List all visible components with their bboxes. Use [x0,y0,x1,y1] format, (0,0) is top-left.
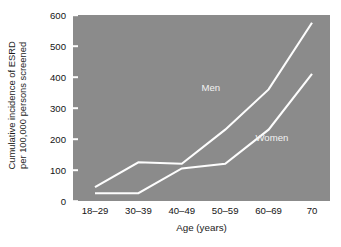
x-axis-tick-label: 18–29 [82,205,109,216]
x-axis-tick-label: 50–59 [212,205,239,216]
y-axis-tick-label: 200 [34,134,66,145]
series-label-men: Men [202,82,221,93]
y-axis-title-text: Cumulative incidence of ESRD per 100,000… [6,41,29,169]
y-axis-tick-labels: 0100200300400500600 [34,0,66,247]
plot-area: MenWomen [73,15,330,201]
x-axis-tick-label: 30–39 [125,205,152,216]
x-axis-tick-label: 70 [307,205,318,216]
x-axis-tick-labels: 18–2930–3940–4950–5960–6970 [73,205,330,221]
chart-figure: Cumulative incidence of ESRD per 100,000… [0,0,341,247]
y-axis-title: Cumulative incidence of ESRD per 100,000… [0,0,34,210]
y-axis-tick-label: 400 [34,72,66,83]
y-axis-title-line-1: Cumulative incidence of ESRD [6,41,17,169]
x-axis-tick-label: 40–49 [168,205,195,216]
y-axis-tick-mark [73,200,78,202]
series-line-men [95,23,312,187]
y-axis-tick-mark [73,138,78,140]
y-axis-tick-label: 500 [34,41,66,52]
y-axis-tick-label: 0 [34,196,66,207]
y-axis-tick-mark [73,107,78,109]
y-axis-tick-mark [73,169,78,171]
series-label-women: Women [255,132,288,143]
y-axis-tick-label: 600 [34,10,66,21]
y-axis-tick-label: 300 [34,103,66,114]
y-axis-tick-label: 100 [34,165,66,176]
y-axis-tick-mark [73,45,78,47]
y-axis-tick-mark [73,14,78,16]
x-axis-tick-label: 60–69 [255,205,282,216]
y-axis-title-line-2: per 100,000 persons screened [17,41,28,169]
x-axis-title: Age (years) [73,222,330,233]
y-axis-tick-mark [73,76,78,78]
series-canvas [73,15,330,201]
